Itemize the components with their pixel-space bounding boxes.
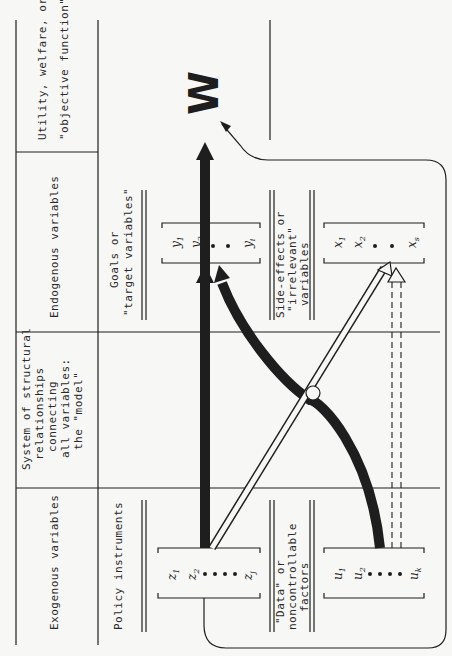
svg-text:y1: y1: [169, 236, 185, 249]
u-to-y-arrow: [222, 283, 380, 548]
label-policy: Policy instruments: [112, 502, 125, 630]
svg-text:relationships: relationships: [33, 367, 46, 460]
svg-text:all variables:: all variables:: [59, 358, 72, 458]
svg-text:System of structural: System of structural: [20, 328, 33, 470]
welfare-symbol: W: [181, 71, 227, 115]
data-variables: u1 u2 uk: [331, 567, 423, 580]
header-endogenous: Endogenous variables: [48, 176, 61, 318]
svg-text:xs: xs: [405, 237, 421, 248]
feedback-loop: [204, 124, 446, 648]
svg-text:u1: u1: [331, 567, 347, 580]
svg-text:y2: y2: [189, 236, 205, 249]
header-exogenous: Exogenous variables: [48, 495, 61, 630]
feedback-arrowhead-icon: [220, 121, 231, 132]
svg-text:Goals or: Goals or: [108, 231, 121, 288]
z-to-y-arrow: [200, 158, 210, 548]
svg-text:"objective function": "objective function": [58, 0, 71, 140]
svg-text:x1: x1: [331, 236, 347, 248]
svg-text:uk: uk: [407, 567, 423, 580]
svg-text:connecting: connecting: [46, 381, 59, 452]
label-goals: Goals or "target variables": [108, 188, 135, 316]
svg-text:x2: x2: [351, 236, 367, 248]
svg-text:z1: z1: [165, 569, 181, 581]
svg-text:the "model": the "model": [72, 372, 85, 450]
svg-text:zj: zj: [241, 571, 257, 581]
diagram-canvas: Exogenous variables Endogenous variables…: [0, 0, 452, 656]
header-model: System of structural relationships conne…: [20, 328, 85, 470]
svg-text:z2: z2: [185, 569, 201, 581]
svg-text:yi: yi: [241, 238, 257, 249]
svg-text:u2: u2: [351, 567, 367, 580]
label-side-effects: Side-effects or "irrelevant" variables: [274, 211, 311, 318]
svg-text:Utility, welfare, or: Utility, welfare, or: [36, 0, 49, 140]
policy-variables: z1 z2 zj: [165, 569, 257, 581]
label-data: "Data" or noncontrollable factors: [274, 523, 311, 630]
svg-text:variables: variables: [298, 242, 311, 306]
header-utility: Utility, welfare, or "objective function…: [36, 0, 71, 140]
svg-text:factors: factors: [298, 562, 311, 612]
policy-model-diagram: Exogenous variables Endogenous variables…: [0, 0, 452, 656]
svg-text:"target variables": "target variables": [122, 188, 135, 316]
